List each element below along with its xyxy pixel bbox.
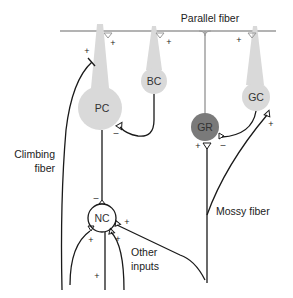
- mossy-fiber-label: Mossy fiber: [216, 205, 270, 217]
- svg-text:+: +: [195, 141, 200, 151]
- pc-label: PC: [95, 102, 110, 114]
- synapse-mf-gr: [203, 143, 211, 149]
- bc-label: BC: [147, 75, 162, 87]
- parallel-fiber-label: Parallel fiber: [181, 12, 240, 24]
- svg-text:+: +: [166, 37, 171, 47]
- synapse-mf-gc: [264, 109, 272, 117]
- other-inputs-label-line1: Other: [131, 246, 158, 258]
- synapse-gc-gr: [219, 133, 224, 139]
- cerebellar-circuit-diagram: Parallel fiber PC BC GC GR + + + – + Cli…: [0, 0, 293, 298]
- svg-text:+: +: [110, 38, 115, 48]
- nc-label: NC: [94, 212, 110, 224]
- svg-text:–: –: [220, 140, 225, 150]
- svg-text:–: –: [93, 193, 98, 203]
- gc-axon: [222, 111, 256, 137]
- climbing-fiber-label-line1: Climbing: [14, 148, 55, 160]
- svg-text:+: +: [115, 234, 120, 244]
- svg-text:+: +: [236, 35, 241, 45]
- svg-text:+: +: [268, 119, 273, 129]
- other-inputs-label-line2: inputs: [131, 260, 159, 272]
- climbing-fiber-label-line2: fiber: [35, 162, 56, 174]
- svg-text:–: –: [113, 128, 118, 138]
- svg-text:+: +: [88, 235, 93, 245]
- svg-text:+: +: [84, 46, 89, 56]
- bc-axon: [120, 94, 154, 136]
- gc-label: GC: [248, 91, 264, 103]
- gr-label: GR: [197, 121, 213, 133]
- svg-text:+: +: [94, 271, 99, 281]
- svg-text:+: +: [124, 217, 129, 227]
- climbing-collateral: [70, 231, 90, 285]
